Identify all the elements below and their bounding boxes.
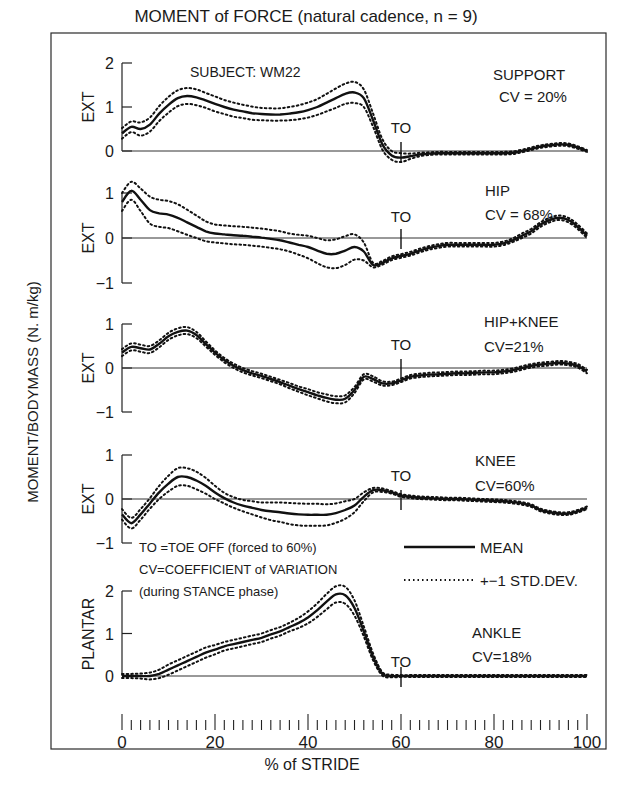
subject-label: SUBJECT: WM22 (190, 64, 301, 80)
x-tick-label: 100 (573, 733, 601, 752)
x-tick-label: 60 (392, 733, 411, 752)
legend-mean-label: MEAN (480, 539, 523, 556)
legend-sd-label: +−1 STD.DEV. (480, 572, 578, 589)
panel-hip: −101EXTTOHIPCV = 68% (80, 182, 587, 292)
y-tick-label: 2 (105, 55, 114, 72)
panel-axis-label: EXT (80, 352, 97, 383)
y-tick-label: 2 (105, 583, 114, 600)
y-tick-label: 1 (105, 626, 114, 643)
y-tick-label: −1 (96, 535, 114, 552)
panel-axis-label: EXT (80, 91, 97, 122)
mean-line (122, 191, 587, 266)
x-tick-label: 80 (485, 733, 504, 752)
toe-off-label: TO (391, 208, 412, 225)
note-stance: (during STANCE phase) (139, 584, 278, 599)
toe-off-label: TO (391, 467, 412, 484)
x-axis: 020406080100 (117, 714, 601, 752)
toe-off-label: TO (391, 336, 412, 353)
y-tick-label: −1 (96, 275, 114, 292)
x-tick-label: 40 (299, 733, 318, 752)
panel-cv: CV = 20% (499, 88, 567, 105)
panel-name: HIP (485, 182, 510, 199)
panel-cv: CV=18% (472, 648, 532, 665)
y-tick-label: −1 (96, 404, 114, 421)
panel-axis-label: PLANTAR (80, 598, 97, 671)
y-tick-label: 0 (105, 668, 114, 685)
y-tick-label: 1 (105, 316, 114, 333)
panel-name: HIP+KNEE (484, 313, 559, 330)
y-tick-label: 1 (105, 447, 114, 464)
x-tick-label: 20 (206, 733, 225, 752)
panel-name: ANKLE (472, 624, 521, 641)
toe-off-label: TO (391, 119, 412, 136)
y-tick-label: 1 (105, 99, 114, 116)
panel-axis-label: EXT (80, 222, 97, 253)
y-tick-label: 0 (105, 491, 114, 508)
panel-name: KNEE (475, 452, 516, 469)
y-tick-label: 0 (105, 143, 114, 160)
panel-cv: CV=21% (484, 338, 544, 355)
x-tick-label: 0 (117, 733, 126, 752)
moment-of-force-chart: MOMENT of FORCE (natural cadence, n = 9)… (0, 0, 624, 786)
y-tick-label: 0 (105, 360, 114, 377)
panel-name: SUPPORT (493, 66, 565, 83)
note-toe-off: TO =TOE OFF (forced to 60%) (139, 540, 317, 555)
panel-support: 012EXTTOSUPPORTCV = 20% (80, 55, 587, 162)
panel-cv: CV=60% (475, 477, 535, 494)
y-axis-label: MOMENT/BODYMASS (N. m/kg) (24, 281, 41, 503)
legend: MEAN +−1 STD.DEV. (404, 539, 578, 589)
plot-frame (51, 33, 606, 749)
panel-axis-label: EXT (80, 483, 97, 514)
chart-title: MOMENT of FORCE (natural cadence, n = 9) (134, 7, 477, 26)
toe-off-label: TO (391, 653, 412, 670)
x-axis-label: % of STRIDE (264, 756, 359, 773)
panel-cv: CV = 68% (485, 206, 553, 223)
panel-knee: −101EXTTOKNEECV=60% (80, 447, 587, 552)
note-cv: CV=COEFFICIENT of VARIATION (139, 562, 337, 577)
panel-hip-knee: −101EXTTOHIP+KNEECV=21% (80, 313, 587, 421)
y-tick-label: 1 (105, 185, 114, 202)
y-tick-label: 0 (105, 230, 114, 247)
